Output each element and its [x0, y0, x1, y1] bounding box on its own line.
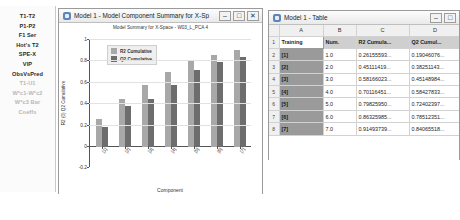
- sidebar-item-10[interactable]: Coeffs: [18, 108, 36, 118]
- table-cell[interactable]: 0.58166023...: [356, 73, 409, 85]
- table-row: 3[2]2.00.45111419...0.38251143...: [269, 61, 459, 73]
- sidebar-item-4[interactable]: SPE-X: [19, 50, 36, 60]
- table-cell[interactable]: 0.70116451...: [356, 86, 409, 98]
- bar-group: [182, 39, 205, 147]
- table-cell[interactable]: Num.: [323, 36, 356, 48]
- sidebar-item-5[interactable]: VIP: [23, 60, 32, 70]
- gridline: [89, 39, 251, 40]
- table-cell[interactable]: 5.0: [323, 98, 356, 110]
- table-window-title: Model 1 - Table: [284, 14, 430, 21]
- table-cell[interactable]: [5]: [279, 98, 323, 110]
- sidebar-item-6[interactable]: ObsVsPred: [12, 70, 43, 80]
- y-tick-label: -0.2: [79, 165, 87, 170]
- table-cell[interactable]: [2]: [279, 61, 323, 73]
- table-cell[interactable]: 0.91493739...: [356, 123, 409, 135]
- table-cell[interactable]: 6.0: [323, 110, 356, 122]
- bar: [148, 99, 154, 147]
- bar: [125, 106, 131, 147]
- sidebar-item-3[interactable]: Hot's T2: [16, 41, 39, 51]
- table-cell[interactable]: [7]: [279, 123, 323, 135]
- table-row: 5[4]4.00.70116451...0.58427833...: [269, 86, 459, 98]
- x-tick-label: [5]: [193, 147, 200, 154]
- table-cell[interactable]: [4]: [279, 86, 323, 98]
- y-tick-label: 0.4: [80, 101, 87, 106]
- table-cell[interactable]: [6]: [279, 110, 323, 122]
- sidebar-item-0[interactable]: T1-T2: [20, 12, 35, 22]
- table-cell[interactable]: 0.72402397...: [409, 98, 459, 110]
- y-axis-label: R2 (0) Q2 Cumulative: [61, 81, 66, 125]
- table-cell[interactable]: Training: [279, 36, 323, 48]
- table-cell[interactable]: 0.45111419...: [356, 61, 409, 73]
- table-cell[interactable]: 0.19046076...: [409, 48, 459, 60]
- gridline: [89, 103, 251, 104]
- table-window-titlebar[interactable]: Model 1 - Table – □: [269, 11, 459, 25]
- legend-swatch-icon: [111, 48, 117, 54]
- grid-corner[interactable]: [269, 25, 279, 36]
- maximize-icon[interactable]: □: [444, 13, 456, 23]
- row-header[interactable]: 6: [269, 98, 279, 110]
- table-cell[interactable]: Q2 Cumul...: [409, 36, 459, 48]
- table-window: Model 1 - Table – □ ABCD1TrainingNum.R2 …: [268, 10, 460, 160]
- row-header[interactable]: 2: [269, 48, 279, 60]
- row-header[interactable]: 4: [269, 73, 279, 85]
- column-header-b[interactable]: B: [323, 25, 356, 36]
- column-header-c[interactable]: C: [356, 25, 409, 36]
- bar-group: [205, 39, 228, 147]
- table-row: 8[7]7.00.91493739...0.84065518...: [269, 123, 459, 135]
- sidebar-item-7[interactable]: T1-U1: [19, 79, 35, 89]
- app-icon: [63, 12, 71, 20]
- row-header[interactable]: 1: [269, 36, 279, 48]
- table-cell[interactable]: 2.0: [323, 61, 356, 73]
- app-icon: [273, 14, 281, 22]
- column-header-d[interactable]: D: [409, 25, 459, 36]
- minimize-icon[interactable]: –: [219, 11, 231, 21]
- chart-title: Model Summary for X-Space - W03_L_PCA 4: [59, 25, 262, 30]
- chart-window-titlebar[interactable]: Model 1 - Model Component Summary for X-…: [59, 9, 262, 23]
- sidebar-item-1[interactable]: P1-P2: [19, 22, 35, 32]
- row-header[interactable]: 7: [269, 110, 279, 122]
- sidebar-item-8[interactable]: W*c1-W*c2: [12, 89, 42, 99]
- legend-item-0: R2 Cumulative: [111, 48, 152, 54]
- table-row: 7[6]6.00.86325985...0.78512351...: [269, 110, 459, 122]
- column-header-row: ABCD: [269, 25, 459, 36]
- table-cell[interactable]: 0.45148984...: [409, 73, 459, 85]
- table-cell[interactable]: 1.0: [323, 48, 356, 60]
- table-cell[interactable]: R2 Cumula...: [356, 36, 409, 48]
- table-cell[interactable]: 7.0: [323, 123, 356, 135]
- sidebar-item-2[interactable]: F1 Ser: [19, 31, 37, 41]
- table-cell[interactable]: 4.0: [323, 86, 356, 98]
- table-row: 4[3]3.00.58166023...0.45148984...: [269, 73, 459, 85]
- table-cell[interactable]: 3.0: [323, 73, 356, 85]
- table-cell[interactable]: [1]: [279, 48, 323, 60]
- chart-legend: R2 CumulativeQ2 Cumulative: [107, 45, 157, 65]
- sidebar-item-9[interactable]: W*c3 Bar: [15, 98, 40, 108]
- maximize-icon[interactable]: □: [233, 11, 245, 21]
- bar: [217, 62, 223, 147]
- spreadsheet-grid[interactable]: ABCD1TrainingNum.R2 Cumula...Q2 Cumul...…: [269, 25, 459, 160]
- minimize-icon[interactable]: –: [430, 13, 442, 23]
- x-tick-label: [4]: [170, 147, 177, 154]
- row-header[interactable]: 5: [269, 86, 279, 98]
- table-row: 6[5]5.00.79825950...0.72402397...: [269, 98, 459, 110]
- table-cell[interactable]: 0.78512351...: [409, 110, 459, 122]
- y-tick-mark: [87, 167, 89, 168]
- table-cell[interactable]: 0.84065518...: [409, 123, 459, 135]
- data-table: ABCD1TrainingNum.R2 Cumula...Q2 Cumul...…: [269, 25, 459, 136]
- table-cell[interactable]: 0.86325985...: [356, 110, 409, 122]
- table-cell[interactable]: [3]: [279, 73, 323, 85]
- gridline: [89, 125, 251, 126]
- table-cell[interactable]: 0.38251143...: [409, 61, 459, 73]
- table-cell[interactable]: 0.26155593...: [356, 48, 409, 60]
- column-header-a[interactable]: A: [279, 25, 323, 36]
- row-header[interactable]: 3: [269, 61, 279, 73]
- table-cell[interactable]: 0.79825950...: [356, 98, 409, 110]
- chart-window-buttons: – □ ✕: [219, 11, 260, 21]
- table-header-row: 1TrainingNum.R2 Cumula...Q2 Cumul...: [269, 36, 459, 48]
- gridline: [89, 60, 251, 61]
- table-cell[interactable]: 0.58427833...: [409, 86, 459, 98]
- close-icon[interactable]: ✕: [247, 11, 259, 21]
- bar: [240, 57, 246, 147]
- y-tick-label: 0.2: [80, 122, 87, 127]
- row-header[interactable]: 8: [269, 123, 279, 135]
- chart-window-title: Model 1 - Model Component Summary for X-…: [74, 12, 219, 19]
